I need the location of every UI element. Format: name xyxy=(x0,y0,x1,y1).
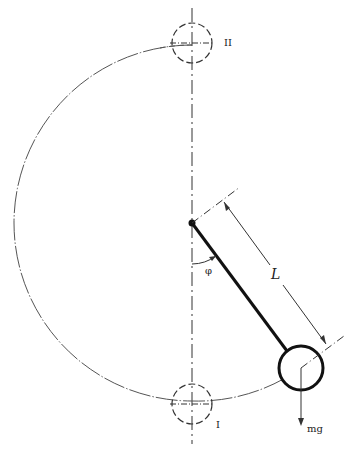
label-position-ii: II xyxy=(224,38,232,48)
dimension-extension-top xyxy=(192,187,240,223)
length-dimension-line-lower xyxy=(283,285,326,344)
pendulum-diagram xyxy=(0,0,360,449)
rotation-path xyxy=(14,45,301,401)
label-length: L xyxy=(271,267,280,281)
label-mg: mg xyxy=(307,424,323,434)
pendulum-rod xyxy=(192,223,287,351)
length-dimension-line xyxy=(224,202,270,265)
label-angle-phi: φ xyxy=(205,266,212,276)
gravity-arrowhead xyxy=(298,418,304,426)
angle-arrowhead xyxy=(209,256,216,261)
label-position-i: I xyxy=(216,420,220,430)
